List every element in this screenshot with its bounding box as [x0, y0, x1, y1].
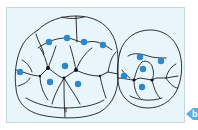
contact-point: [139, 84, 145, 90]
contact-point: [137, 54, 143, 60]
premolar-outline: [117, 30, 181, 108]
occlusal-diagram: [0, 0, 198, 130]
contact-point: [62, 63, 68, 69]
contact-point: [140, 66, 146, 72]
panel-tab-label: b: [192, 108, 198, 120]
premolar-contact-points: [121, 54, 164, 90]
contact-point: [75, 81, 81, 87]
contact-point: [81, 39, 87, 45]
contact-point: [158, 58, 164, 64]
molar-contact-points: [17, 35, 106, 87]
contact-point: [46, 39, 52, 45]
contact-point: [100, 42, 106, 48]
contact-point: [64, 35, 70, 41]
contact-point: [121, 73, 127, 79]
contact-point: [17, 69, 23, 75]
contact-point: [47, 79, 53, 85]
